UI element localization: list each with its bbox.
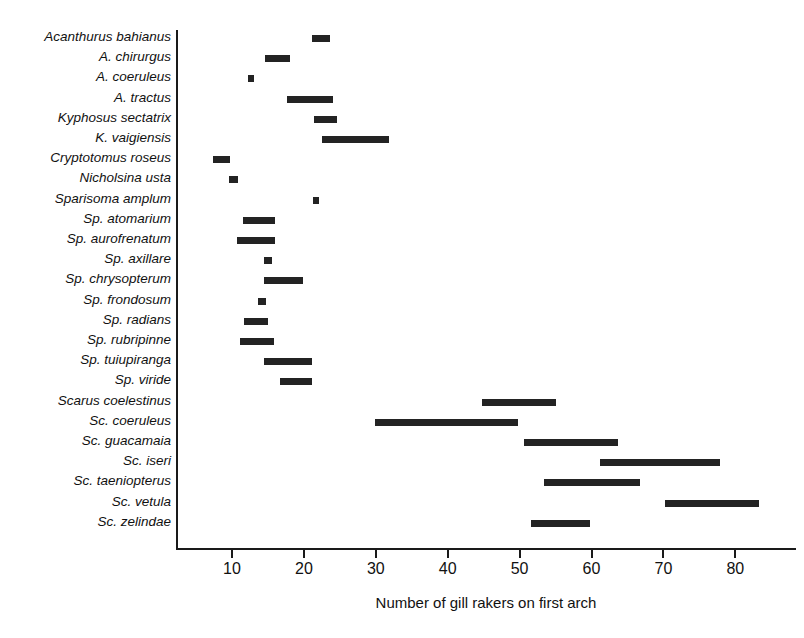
range-bar [248,75,254,82]
x-axis-title: Number of gill rakers on first arch [176,594,796,611]
category-label: K. vaigiensis [0,131,171,145]
category-label: Sp. frondosum [0,293,171,307]
category-label: Scarus coelestinus [0,394,171,408]
range-bar [322,136,390,143]
category-label: Sparisoma amplum [0,192,171,206]
range-bar [524,439,617,446]
range-bar [313,197,319,204]
x-tick-label: 70 [643,560,683,578]
x-tick [734,550,736,558]
x-tick [231,550,233,558]
category-label: Sp. aurofrenatum [0,232,171,246]
range-bar [258,298,266,305]
plot-area [176,30,796,548]
range-bar [264,257,272,264]
category-label: Nicholsina usta [0,171,171,185]
category-label: A. chirurgus [0,50,171,64]
range-bar [243,217,275,224]
category-label: Sp. chrysopterum [0,272,171,286]
x-axis-line [176,548,796,550]
range-bar [229,176,238,183]
range-bar [375,419,518,426]
gill-raker-range-chart: Acanthurus bahianusA. chirurgusA. coerul… [0,0,804,638]
range-bar [237,237,275,244]
x-tick [375,550,377,558]
range-bar [265,55,290,62]
category-label: Sp. rubripinne [0,333,171,347]
x-tick-label: 30 [356,560,396,578]
category-label: Sp. axillare [0,252,171,266]
category-label: Sc. vetula [0,495,171,509]
x-tick [447,550,449,558]
x-tick-label: 10 [212,560,252,578]
category-label: Acanthurus bahianus [0,30,171,44]
range-bar [280,378,312,385]
category-label: Sp. viride [0,373,171,387]
range-bar [244,318,268,325]
category-label: Sc. guacamaia [0,434,171,448]
range-bar [600,459,720,466]
x-tick-label: 50 [500,560,540,578]
category-label: Sp. atomarium [0,212,171,226]
category-label: A. tractus [0,91,171,105]
x-tick [303,550,305,558]
x-tick-label: 40 [428,560,468,578]
range-bar [665,500,759,507]
category-label: Sc. iseri [0,454,171,468]
range-bar [312,35,330,42]
category-label: Sc. zelindae [0,515,171,529]
category-label: Kyphosus sectatrix [0,111,171,125]
range-bar [264,277,303,284]
range-bar [482,399,556,406]
category-label: Sc. taeniopterus [0,474,171,488]
x-tick-label: 60 [572,560,612,578]
category-label: Sc. coeruleus [0,414,171,428]
category-label: Sp. tuiupiranga [0,353,171,367]
x-tick-label: 80 [715,560,755,578]
range-bar [213,156,230,163]
category-label: A. coeruleus [0,70,171,84]
range-bar [544,479,640,486]
category-axis-labels: Acanthurus bahianusA. chirurgusA. coerul… [0,0,171,638]
range-bar [240,338,274,345]
x-tick [662,550,664,558]
x-tick-label: 20 [284,560,324,578]
category-label: Sp. radians [0,313,171,327]
x-tick [591,550,593,558]
range-bar [314,116,337,123]
range-bar [287,96,333,103]
range-bar [531,520,590,527]
range-bar [264,358,312,365]
category-label: Cryptotomus roseus [0,151,171,165]
x-tick [519,550,521,558]
